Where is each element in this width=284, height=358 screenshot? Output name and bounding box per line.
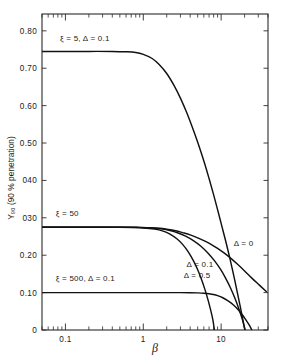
y-tick-label: 0.60 xyxy=(20,102,37,111)
annotation-label: ξ = 50 xyxy=(56,209,79,218)
annotation-label: Δ = 0.5 xyxy=(184,271,211,280)
x-tick-label: 0.1 xyxy=(59,335,71,344)
chart-canvas: 00.100.200300400.500.600.700.80 0.1110 ξ… xyxy=(0,0,284,358)
x-axis-title: β xyxy=(151,341,158,355)
y-tick-label: 0.10 xyxy=(20,289,37,298)
y-tick-label: 030 xyxy=(22,214,37,223)
x-tick-label: 1 xyxy=(141,335,146,344)
chart-figure: 00.100.200300400.500.600.700.80 0.1110 ξ… xyxy=(0,0,284,358)
y-tick-label: 0.20 xyxy=(20,251,37,260)
y-tick-label: 0.80 xyxy=(20,27,37,36)
y-tick-label: 0.70 xyxy=(20,64,37,73)
annotation-label: ξ = 5, Δ = 0.1 xyxy=(60,34,110,43)
y-tick-label: 0.50 xyxy=(20,139,37,148)
y-axis-tick-labels: 00.100.200300400.500.600.700.80 xyxy=(20,27,37,335)
annotation-label: ξ = 500, Δ = 0.1 xyxy=(56,274,115,283)
y-tick-label: 040 xyxy=(22,176,37,185)
annotation-label: Δ = 0.1 xyxy=(187,260,214,269)
annotation-label: Δ = 0 xyxy=(234,239,254,248)
y-axis-title: Y₉₀ (90 % penetration) xyxy=(6,136,16,220)
x-tick-label: 10 xyxy=(216,335,226,344)
y-tick-label: 0 xyxy=(32,326,37,335)
